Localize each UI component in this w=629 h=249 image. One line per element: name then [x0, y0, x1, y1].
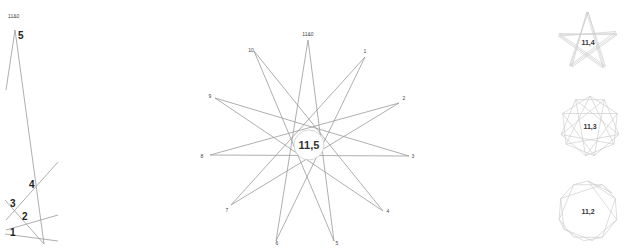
vertex-label-5: 5: [336, 240, 339, 246]
step-label-2: 2: [22, 211, 28, 222]
thumbnail-label-11-3: 11,3: [583, 123, 596, 131]
step-label-3: 3: [10, 198, 16, 209]
vertex-label-8: 8: [201, 153, 204, 159]
main-star-11-5: 11,5 11&0 1 2 3 4 5 6 7 8 9 10: [201, 31, 415, 246]
step-label-5: 5: [18, 30, 24, 41]
star-polygon-diagram: 11&0 5 4 3 2 1 11,5 11&0 1 2 3 4 5 6 7 8…: [0, 0, 629, 249]
vertex-label-1: 1: [364, 48, 367, 54]
thumbnail-label-11-2: 11,2: [581, 208, 594, 216]
vertex-label-9: 9: [209, 93, 212, 99]
construction-top-label: 11&0: [8, 13, 20, 19]
thumbnail-star-11-2: 11,2: [559, 181, 617, 241]
thumbnail-star-11-4: 11,4: [559, 12, 618, 68]
step-label-4: 4: [29, 179, 35, 190]
vertex-label-6: 6: [276, 240, 279, 246]
vertex-label-4: 4: [387, 208, 390, 214]
vertex-label-2: 2: [403, 95, 406, 101]
vertex-label-3: 3: [412, 153, 415, 159]
construction-panel: 11&0 5 4 3 2 1: [5, 13, 58, 244]
step-label-1: 1: [10, 227, 16, 238]
vertex-label-10: 10: [248, 47, 254, 53]
thumbnail-star-11-3: 11,3: [561, 96, 619, 156]
main-star-label: 11,5: [299, 139, 320, 151]
vertex-label-0: 11&0: [302, 31, 314, 37]
vertex-label-7: 7: [226, 207, 229, 213]
thumbnail-label-11-4: 11,4: [581, 39, 594, 47]
